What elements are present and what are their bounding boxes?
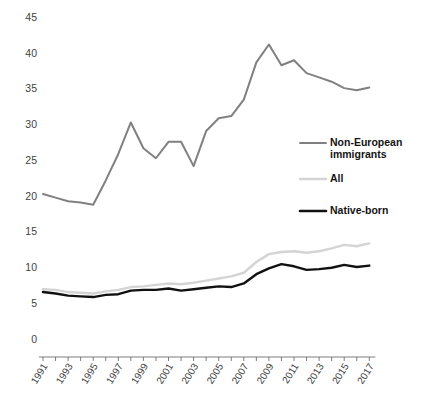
y-tick-label: 20 (25, 190, 37, 202)
x-tick-label-group: 2017 (355, 361, 376, 386)
y-axis-tick-labels: 051015202530354045 (25, 11, 37, 345)
y-tick-label: 10 (25, 261, 37, 273)
x-tick-label: 2005 (204, 361, 225, 386)
y-tick-label: 5 (31, 297, 37, 309)
x-axis (39, 357, 375, 361)
x-tick-label: 1997 (104, 361, 125, 386)
x-tick-label-group: 2011 (280, 361, 301, 385)
x-tick-label: 2017 (355, 361, 376, 386)
series-lines (43, 44, 369, 297)
x-tick-label: 2011 (280, 361, 301, 385)
x-tick-label-group: 2015 (330, 361, 351, 386)
x-tick-label-group: 1997 (104, 361, 125, 386)
x-tick-label: 2013 (305, 361, 326, 386)
x-tick-label: 2015 (330, 361, 351, 386)
x-tick-label: 1995 (79, 361, 100, 386)
legend-label: Non-European (330, 136, 402, 148)
y-tick-label: 40 (25, 47, 37, 59)
x-axis-tick-labels: 1991199319951997199920012003200520072009… (29, 361, 377, 386)
legend-label-line2: immigrants (330, 148, 387, 160)
y-tick-label: 30 (25, 118, 37, 130)
x-tick-label: 1999 (129, 361, 150, 386)
x-tick-label-group: 1995 (79, 361, 100, 386)
x-tick-label: 2003 (179, 361, 200, 386)
x-tick-label: 1991 (29, 361, 50, 386)
y-tick-label: 25 (25, 154, 37, 166)
legend-label: All (330, 172, 344, 184)
x-tick-label-group: 2003 (179, 361, 200, 386)
x-tick-label-group: 2005 (204, 361, 225, 386)
x-tick-label: 2007 (229, 361, 250, 386)
line-chart: 051015202530354045 199119931995199719992… (0, 0, 424, 395)
x-tick-label-group: 2009 (254, 361, 275, 386)
x-tick-label-group: 1991 (29, 361, 50, 386)
x-tick-label-group: 1999 (129, 361, 150, 386)
x-tick-label-group: 2007 (229, 361, 250, 386)
y-tick-label: 35 (25, 82, 37, 94)
y-tick-label: 15 (25, 225, 37, 237)
chart-svg: 051015202530354045 199119931995199719992… (0, 0, 424, 395)
series-line (43, 44, 369, 204)
x-tick-label: 1993 (54, 361, 75, 386)
y-tick-label: 0 (31, 333, 37, 345)
x-tick-label-group: 2001 (154, 361, 175, 386)
x-tick-label: 2001 (154, 361, 175, 386)
x-tick-label-group: 2013 (305, 361, 326, 386)
y-tick-label: 45 (25, 11, 37, 23)
chart-legend: Non-EuropeanimmigrantsAllNative-born (300, 136, 402, 216)
x-tick-label-group: 1993 (54, 361, 75, 386)
legend-label: Native-born (330, 204, 388, 216)
x-tick-label: 2009 (254, 361, 275, 386)
